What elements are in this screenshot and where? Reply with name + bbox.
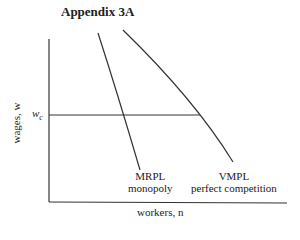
x-axis-label: workers, n [137,206,183,218]
mrpl-curve [98,33,140,170]
vmpl-label-line2: perfect competition [191,182,277,194]
mrpl-label: MRPL monopoly [128,170,173,194]
wc-tick-label: wc [32,107,43,122]
mrpl-label-line1: MRPL [128,170,173,182]
x-axis [49,202,287,203]
y-axis-label: wages, w [10,93,22,153]
vmpl-label-line1: VMPL [191,170,277,182]
mrpl-label-line2: monopoly [128,182,173,194]
vmpl-curve [123,30,233,162]
vmpl-label: VMPL perfect competition [191,170,277,194]
